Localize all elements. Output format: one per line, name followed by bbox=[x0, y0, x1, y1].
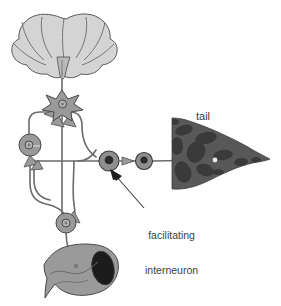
left-motor-neuron bbox=[19, 134, 41, 156]
tail-label: tail bbox=[196, 110, 210, 122]
facilitating-interneuron-label-line2: interneuron bbox=[145, 265, 198, 277]
lower-motor-neuron bbox=[56, 213, 76, 233]
pointer-arrow-facilitating-interneuron bbox=[110, 169, 144, 208]
facilitating-interneuron bbox=[99, 151, 119, 171]
synapse-terminal-facilitating bbox=[122, 157, 134, 165]
tail bbox=[169, 118, 270, 189]
facilitating-interneuron-label: facilitating interneuron bbox=[145, 206, 198, 300]
neuromuscular-junction bbox=[74, 264, 78, 268]
facilitating-interneuron-label-line1: facilitating bbox=[145, 230, 198, 242]
diagram-canvas: tail facilitating interneuron bbox=[0, 0, 281, 306]
cerebral-ganglion bbox=[12, 14, 117, 79]
muscle bbox=[44, 244, 118, 298]
tail-sensory-ending bbox=[213, 158, 218, 163]
neural-circuit-svg bbox=[0, 0, 281, 306]
sensory-neuron bbox=[136, 153, 153, 170]
